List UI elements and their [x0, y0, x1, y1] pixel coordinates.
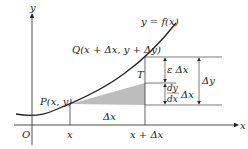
curve-label: y = f(x) — [140, 16, 179, 27]
y-axis-label: y — [29, 2, 36, 13]
tangent-triangle-shade — [70, 83, 145, 105]
dy-label: dy — [167, 83, 179, 93]
point-p-label: P(x, y) — [39, 96, 72, 107]
point-q-label: Q(x + Δx, y + Δy) — [72, 44, 161, 55]
delta-y-label: Δy — [201, 75, 215, 86]
tick-x-plus-dx-label: x + Δx — [130, 129, 164, 140]
x-axis-label: x — [240, 120, 246, 131]
origin-label: O — [22, 129, 30, 140]
dydx-factor-label: Δx — [180, 89, 194, 100]
tick-x-label: x — [67, 129, 73, 140]
shade-base-label: Δx — [102, 111, 116, 122]
epsilon-dx-label: ε Δx — [167, 64, 189, 75]
derivative-diagram: y x O y = f(x) Q(x + Δx, y + Δy) T P(x, … — [0, 0, 248, 149]
point-t-label: T — [137, 69, 145, 80]
dx-label: dx — [167, 94, 178, 104]
